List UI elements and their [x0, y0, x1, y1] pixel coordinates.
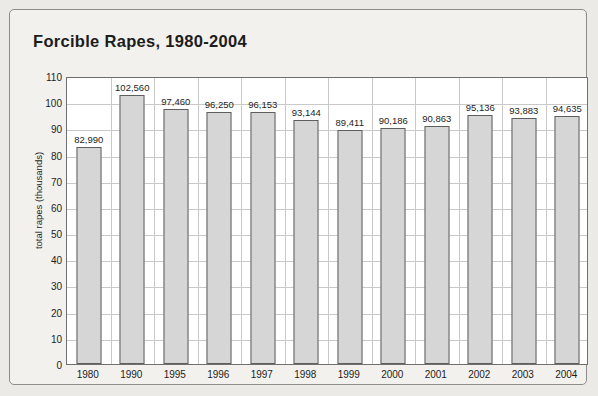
bar-2003[interactable]	[511, 118, 536, 364]
bar-1998[interactable]	[294, 120, 319, 364]
page-title: Forcible Rapes, 1980-2004	[33, 32, 247, 51]
bar-value-label: 93,883	[509, 105, 538, 116]
bar-value-label: 97,460	[161, 96, 190, 107]
bar-value-label: 82,990	[74, 134, 103, 145]
bar-slot: 82,990	[67, 78, 111, 364]
y-axis-tick-label: 40	[22, 255, 62, 266]
bar-value-label: 93,144	[292, 107, 321, 118]
bar-2000[interactable]	[381, 128, 406, 364]
bar-value-label: 89,411	[336, 117, 364, 128]
bar-slot: 89,411	[328, 78, 372, 364]
bar-1980[interactable]	[76, 147, 101, 364]
x-axis-tick-label: 1990	[120, 369, 142, 380]
y-axis-tick-labels: 0102030405060708090100110	[18, 77, 62, 365]
bar-value-label: 90,863	[422, 113, 451, 124]
x-axis-tick-label: 1997	[251, 369, 273, 380]
y-axis-tick-label: 20	[22, 307, 62, 318]
bar-1990[interactable]	[120, 95, 145, 364]
x-axis-tick-label: 1995	[164, 369, 186, 380]
bar-value-label: 102,560	[115, 82, 149, 93]
bar-value-label: 94,635	[553, 103, 582, 114]
figure-frame: Forcible Rapes, 1980-2004 total rapes (t…	[9, 9, 587, 385]
bar-slot: 96,153	[241, 78, 285, 364]
y-axis-tick-label: 50	[22, 229, 62, 240]
bar-slot: 93,883	[502, 78, 546, 364]
bar-1997[interactable]	[250, 112, 275, 364]
bar-slot: 96,250	[198, 78, 242, 364]
bar-slot: 90,863	[415, 78, 459, 364]
x-axis-tick-label: 1999	[338, 369, 360, 380]
bar-value-label: 90,186	[379, 115, 408, 126]
x-axis-tick-label: 2003	[512, 369, 534, 380]
bar-slot: 90,186	[372, 78, 416, 364]
chart-figure: Forcible Rapes, 1980-2004 total rapes (t…	[0, 0, 598, 396]
plot-area: 82,990102,56097,46096,25096,15393,14489,…	[66, 77, 588, 365]
x-axis-tick-label: 2000	[381, 369, 403, 380]
y-axis-tick-label: 10	[22, 333, 62, 344]
y-axis-tick-label: 90	[22, 124, 62, 135]
bar-slot: 97,460	[154, 78, 198, 364]
bar-1996[interactable]	[207, 112, 232, 364]
y-axis-tick-label: 100	[22, 98, 62, 109]
x-axis-tick-label: 1998	[294, 369, 316, 380]
bar-slot: 95,136	[459, 78, 503, 364]
bar-value-label: 95,136	[466, 102, 495, 113]
x-axis-tick-label: 2004	[555, 369, 577, 380]
y-axis-tick-label: 70	[22, 176, 62, 187]
bar-1995[interactable]	[163, 109, 188, 364]
bar-value-label: 96,250	[205, 99, 234, 110]
x-axis-tick-label: 1980	[77, 369, 99, 380]
bar-value-label: 96,153	[248, 99, 277, 110]
bar-2002[interactable]	[468, 115, 493, 364]
bar-slot: 102,560	[111, 78, 155, 364]
bar-2004[interactable]	[555, 116, 580, 364]
y-axis-tick-label: 0	[22, 360, 62, 371]
bar-2001[interactable]	[424, 126, 449, 364]
y-axis-tick-label: 80	[22, 150, 62, 161]
y-axis-tick-label: 60	[22, 202, 62, 213]
x-axis-tick-label: 2002	[468, 369, 490, 380]
x-axis-tick-label: 2001	[425, 369, 447, 380]
bar-1999[interactable]	[337, 130, 362, 364]
bar-slot: 94,635	[546, 78, 590, 364]
y-axis-tick-label: 30	[22, 281, 62, 292]
y-axis-tick-label: 110	[22, 72, 62, 83]
x-axis-tick-label: 1996	[207, 369, 229, 380]
bar-slot: 93,144	[285, 78, 329, 364]
